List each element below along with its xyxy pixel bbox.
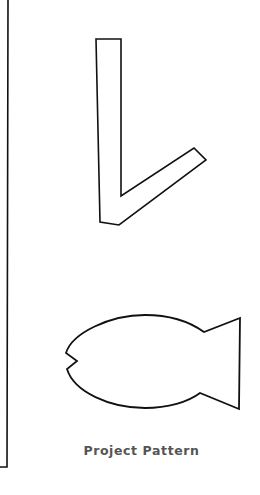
- fish-shape: [66, 315, 240, 409]
- pattern-page: [0, 0, 260, 495]
- checkmark-shape: [96, 39, 206, 225]
- page-border-line: [0, 0, 8, 467]
- caption-text: Project Pattern: [0, 443, 260, 458]
